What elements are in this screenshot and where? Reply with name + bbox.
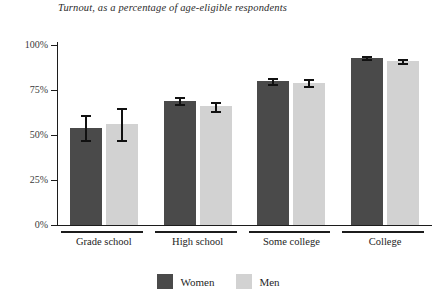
error-bar-cap-upper-women-3 — [362, 56, 372, 58]
legend-item-men[interactable]: Men — [236, 274, 279, 289]
error-bar-cap-lower-women-0 — [81, 140, 91, 142]
error-bar-stem-women-0 — [85, 115, 87, 140]
y-axis-label: 0% — [0, 219, 48, 231]
error-bar-cap-lower-men-1 — [211, 111, 221, 113]
x-axis-group-bracket — [342, 231, 424, 233]
bar-chart: Turnout, as a percentage of age-eligible… — [0, 0, 437, 308]
error-bar-cap-lower-women-1 — [175, 104, 185, 106]
y-axis-label-text: 0% — [0, 219, 48, 230]
y-axis-label-text: 25% — [0, 174, 48, 185]
y-axis-label: 75% — [0, 84, 48, 96]
x-axis-group-label: College — [338, 236, 432, 247]
error-bar-cap-lower-women-2 — [268, 84, 278, 86]
x-axis-group-label: High school — [151, 236, 245, 247]
y-axis-label-text: 75% — [0, 84, 48, 95]
bar-women-2 — [257, 81, 289, 225]
x-axis-group-bracket — [249, 231, 331, 233]
error-bar-cap-lower-women-3 — [362, 59, 372, 61]
x-axis-group-label: Some college — [245, 236, 339, 247]
error-bar-cap-upper-women-0 — [81, 115, 91, 117]
error-bar-cap-upper-men-1 — [211, 102, 221, 104]
legend-swatch-women-icon — [157, 274, 173, 289]
error-bar-cap-upper-men-2 — [304, 79, 314, 81]
x-axis-group-bracket — [61, 231, 143, 233]
x-axis-group-label: Grade school — [57, 236, 151, 247]
bar-women-3 — [351, 58, 383, 225]
error-bar-cap-upper-men-3 — [398, 59, 408, 61]
y-axis-label-text: 100% — [0, 39, 48, 50]
legend-label-women: Women — [180, 276, 214, 288]
error-bar-cap-upper-men-0 — [117, 108, 127, 110]
y-axis-label: 25% — [0, 174, 48, 186]
bar-men-1 — [200, 106, 232, 225]
bar-men-3 — [387, 61, 419, 225]
chart-legend: Women Men — [0, 274, 437, 289]
bar-men-2 — [293, 83, 325, 225]
legend-label-men: Men — [259, 276, 279, 288]
error-bar-cap-lower-men-2 — [304, 86, 314, 88]
y-axis-label: 100% — [0, 39, 48, 51]
error-bar-cap-lower-men-3 — [398, 63, 408, 65]
chart-title: Turnout, as a percentage of age-eligible… — [58, 2, 287, 13]
error-bar-cap-upper-women-2 — [268, 78, 278, 80]
y-axis-label-text: 50% — [0, 129, 48, 140]
legend-item-women[interactable]: Women — [157, 274, 214, 289]
error-bar-stem-men-0 — [121, 108, 123, 140]
bar-women-1 — [164, 101, 196, 225]
error-bar-cap-upper-women-1 — [175, 97, 185, 99]
plot-area — [57, 42, 432, 226]
y-axis-label: 50% — [0, 129, 48, 141]
legend-swatch-men-icon — [236, 274, 252, 289]
error-bar-cap-lower-men-0 — [117, 140, 127, 142]
x-axis-group-bracket — [155, 231, 237, 233]
